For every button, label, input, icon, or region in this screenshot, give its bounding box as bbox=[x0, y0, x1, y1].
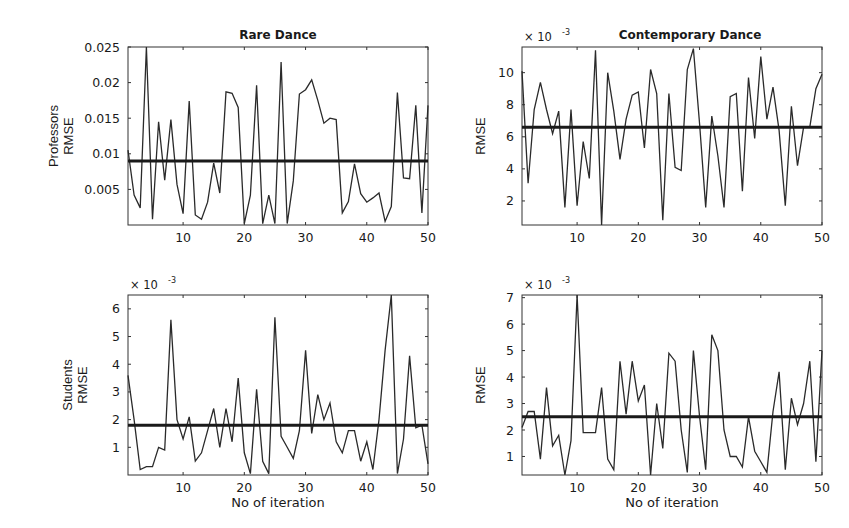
subplot-bottom-right: 10203040501234567× 10-3RMSENo of iterati… bbox=[473, 276, 830, 510]
y-tick-label: 6 bbox=[506, 129, 514, 144]
figure: 10203040500.0050.010.0150.020.025Rare Da… bbox=[0, 0, 849, 528]
x-axis-label: No of iteration bbox=[625, 495, 718, 510]
x-tick-label: 50 bbox=[814, 230, 830, 245]
y-tick-label: 0.01 bbox=[92, 146, 120, 161]
y-tick-label: 7 bbox=[506, 290, 514, 305]
y-tick-label: 4 bbox=[506, 370, 514, 385]
y-tick-label: 1 bbox=[506, 449, 514, 464]
axis-exponent: × 10 bbox=[130, 278, 158, 292]
axis-exponent: × 10 bbox=[524, 278, 552, 292]
y-tick-label: 8 bbox=[506, 97, 514, 112]
y-axis-label: RMSE bbox=[473, 117, 488, 155]
x-tick-label: 40 bbox=[359, 230, 375, 245]
x-tick-label: 40 bbox=[359, 480, 375, 495]
x-axis-label: No of iteration bbox=[231, 495, 324, 510]
panel-title: Rare Dance bbox=[239, 28, 316, 42]
y-tick-label: 0.02 bbox=[92, 75, 120, 90]
subplot-top-right: 1020304050246810Contemporary Dance× 10-3… bbox=[473, 28, 830, 245]
y-tick-label: 3 bbox=[506, 396, 514, 411]
y-tick-label: 4 bbox=[112, 357, 120, 372]
y-tick-label: 0.015 bbox=[84, 111, 120, 126]
x-tick-label: 20 bbox=[630, 230, 646, 245]
x-tick-label: 20 bbox=[236, 480, 252, 495]
x-tick-label: 20 bbox=[630, 480, 646, 495]
axis-exponent-power: -3 bbox=[168, 276, 176, 285]
panel-title: Contemporary Dance bbox=[619, 28, 762, 42]
y-tick-label: 1 bbox=[112, 440, 120, 455]
y-axis-label: Students bbox=[60, 359, 75, 411]
y-axis-label: RMSE bbox=[75, 366, 90, 404]
y-tick-label: 2 bbox=[112, 412, 120, 427]
x-tick-label: 10 bbox=[175, 230, 191, 245]
y-tick-label: 0.005 bbox=[84, 182, 120, 197]
subplot-top-left: 10203040500.0050.010.0150.020.025Rare Da… bbox=[46, 28, 436, 245]
y-axis-label: RMSE bbox=[61, 117, 76, 155]
axis-exponent-power: -3 bbox=[562, 276, 570, 285]
x-tick-label: 50 bbox=[814, 480, 830, 495]
y-tick-label: 6 bbox=[112, 301, 120, 316]
x-tick-label: 10 bbox=[175, 480, 191, 495]
x-tick-label: 30 bbox=[298, 230, 314, 245]
x-tick-label: 20 bbox=[236, 230, 252, 245]
y-tick-label: 6 bbox=[506, 317, 514, 332]
y-tick-label: 5 bbox=[112, 329, 120, 344]
x-tick-label: 40 bbox=[753, 230, 769, 245]
x-tick-label: 50 bbox=[420, 480, 436, 495]
x-tick-label: 10 bbox=[569, 480, 585, 495]
axis-exponent-power: -3 bbox=[562, 28, 570, 37]
axis-exponent: × 10 bbox=[524, 30, 552, 44]
y-tick-label: 0.025 bbox=[84, 40, 120, 55]
x-tick-label: 10 bbox=[569, 230, 585, 245]
y-tick-label: 5 bbox=[506, 343, 514, 358]
x-tick-label: 40 bbox=[753, 480, 769, 495]
x-tick-label: 30 bbox=[692, 480, 708, 495]
y-tick-label: 2 bbox=[506, 193, 514, 208]
y-tick-label: 4 bbox=[506, 161, 514, 176]
y-axis-label: RMSE bbox=[473, 366, 488, 404]
subplot-bottom-left: 1020304050123456× 10-3StudentsRMSENo of … bbox=[60, 276, 436, 510]
x-tick-label: 30 bbox=[692, 230, 708, 245]
x-tick-label: 30 bbox=[298, 480, 314, 495]
y-tick-label: 2 bbox=[506, 423, 514, 438]
y-tick-label: 3 bbox=[112, 384, 120, 399]
y-axis-label: Professors bbox=[46, 104, 61, 167]
x-tick-label: 50 bbox=[420, 230, 436, 245]
y-tick-label: 10 bbox=[498, 65, 514, 80]
